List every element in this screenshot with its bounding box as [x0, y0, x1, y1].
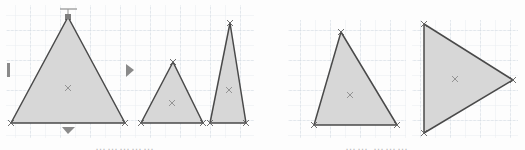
- left-panel: [6, 5, 254, 138]
- right-panel: [288, 20, 518, 138]
- figure-root: …………… …… ………: [0, 0, 525, 150]
- left-bar-handle[interactable]: [7, 63, 10, 77]
- figure-canvas: [0, 0, 525, 150]
